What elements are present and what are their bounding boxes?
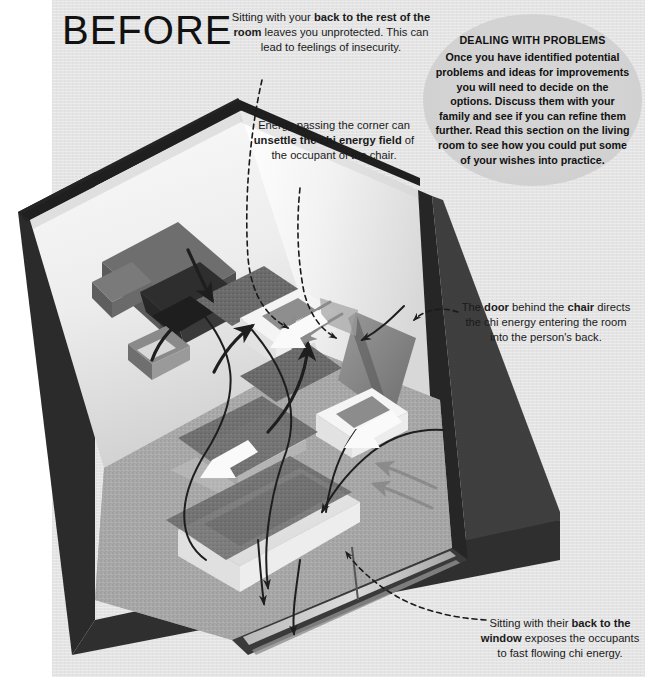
callout-text: Sitting with their back to the window ex… — [481, 617, 640, 659]
page-root: BEFORE Sitting with your back to the res… — [0, 0, 645, 677]
tip-box-body: Once you have identified potential probl… — [435, 50, 631, 167]
callout-text: Energy passing the corner can unsettle t… — [254, 119, 414, 161]
callout-back-to-window: Sitting with their back to the window ex… — [480, 616, 640, 662]
callout-text: The door behind the chair directs the ch… — [462, 301, 631, 343]
callout-door-behind-chair: The door behind the chair directs the ch… — [458, 300, 634, 346]
tip-box-heading: DEALING WITH PROBLEMS — [435, 33, 631, 48]
callout-corner-chi: Energy passing the corner can unsettle t… — [246, 118, 422, 164]
page-title: BEFORE — [62, 8, 232, 52]
tip-box-dealing-with-problems: DEALING WITH PROBLEMS Once you have iden… — [423, 14, 642, 186]
callout-text: Sitting with your back to the rest of th… — [232, 11, 430, 53]
callout-back-to-room: Sitting with your back to the rest of th… — [228, 10, 434, 56]
